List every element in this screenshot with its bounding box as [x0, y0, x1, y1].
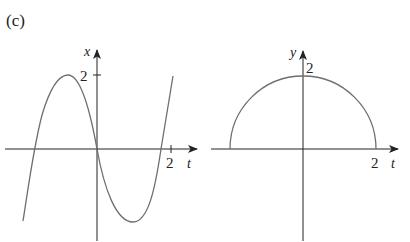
- left-graph: x 2 2 t: [5, 44, 197, 241]
- right-graph: y 2 2 t: [211, 45, 398, 241]
- left-vertical-tick-label: 2: [80, 68, 88, 84]
- left-vertical-axis-label: x: [83, 44, 91, 59]
- right-vertical-axis-label: y: [288, 45, 297, 60]
- figure: (c) x 2 2 t y 2 2 t: [0, 0, 410, 242]
- left-horizontal-axis-label: t: [187, 156, 192, 171]
- right-horizontal-axis-label: t: [391, 156, 396, 171]
- panel-label: (c): [6, 11, 25, 30]
- right-horizontal-tick-label: 2: [371, 155, 379, 171]
- left-horizontal-tick-label: 2: [166, 155, 174, 171]
- right-vertical-tick-label: 2: [306, 60, 314, 76]
